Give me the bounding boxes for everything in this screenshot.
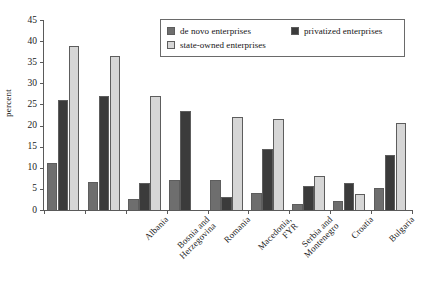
bar [99, 96, 110, 210]
y-axis-tick-label: 15 [13, 142, 37, 152]
legend-item-privatized-enterprises: privatized enterprises [291, 26, 382, 36]
y-axis-tick-mark [40, 147, 44, 148]
y-axis-tick-mark [40, 104, 44, 105]
bar-chart-figure: percent 051015202530354045 de novo enter… [0, 0, 422, 288]
y-axis-tick-mark [40, 62, 44, 63]
bar [396, 123, 407, 210]
y-axis-tick-label: 5 [13, 184, 37, 194]
bar [128, 199, 139, 210]
bar [314, 176, 325, 210]
y-axis-tick-mark [40, 83, 44, 84]
y-axis-tick-mark [40, 20, 44, 21]
x-axis-tick-mark [412, 210, 413, 214]
x-axis-tick-mark [85, 210, 86, 214]
x-axis-tick-mark [44, 210, 45, 214]
bar [374, 188, 385, 210]
x-axis-tick-mark [208, 210, 209, 214]
chart-legend: de novo enterprises privatized enterpris… [160, 19, 405, 57]
y-axis-tick-label: 0 [13, 206, 37, 216]
bar [180, 111, 191, 210]
bar [110, 56, 121, 210]
legend-item-de-novo-enterprises: de novo enterprises [167, 26, 291, 36]
x-axis-tick-mark [126, 210, 127, 214]
y-axis-tick-label: 35 [13, 58, 37, 68]
bar [47, 163, 58, 210]
y-axis-tick-mark [40, 126, 44, 127]
bar [88, 182, 99, 210]
bar [139, 183, 150, 210]
bar [169, 180, 180, 210]
bar [385, 155, 396, 210]
y-axis-tick-label: 10 [13, 163, 37, 173]
bar [210, 180, 221, 210]
bar [355, 194, 366, 210]
legend-swatch-icon [167, 27, 175, 35]
y-axis-tick-label: 25 [13, 100, 37, 110]
x-axis-tick-mark [167, 210, 168, 214]
legend-row: state-owned enterprises [167, 38, 399, 52]
x-axis-tick-mark [371, 210, 372, 214]
y-axis-tick-mark [40, 189, 44, 190]
y-axis-tick-mark [40, 168, 44, 169]
legend-swatch-icon [291, 27, 299, 35]
bar [292, 204, 303, 210]
y-axis-tick-label: 30 [13, 79, 37, 89]
y-axis-tick-label: 20 [13, 121, 37, 131]
bar [150, 96, 161, 210]
x-axis-tick-mark [248, 210, 249, 214]
bar [344, 183, 355, 210]
legend-row: de novo enterprises privatized enterpris… [167, 24, 399, 38]
bar [58, 100, 69, 210]
y-axis-tick-label: 40 [13, 37, 37, 47]
x-axis-tick-mark [330, 210, 331, 214]
legend-label: privatized enterprises [304, 26, 382, 36]
bar [251, 193, 262, 210]
x-axis-tick-mark [289, 210, 290, 214]
bar [273, 119, 284, 210]
bar [69, 46, 80, 210]
y-axis-tick-mark [40, 41, 44, 42]
legend-label: de novo enterprises [180, 26, 251, 36]
legend-label: state-owned enterprises [180, 40, 266, 50]
bar [303, 186, 314, 210]
bar [262, 149, 273, 210]
y-axis-title: percent [3, 73, 13, 133]
bar [232, 117, 243, 210]
bar [221, 197, 232, 210]
bar [333, 201, 344, 210]
y-axis-tick-label: 45 [13, 16, 37, 26]
legend-item-state-owned-enterprises: state-owned enterprises [167, 40, 266, 50]
legend-swatch-icon [167, 41, 175, 49]
